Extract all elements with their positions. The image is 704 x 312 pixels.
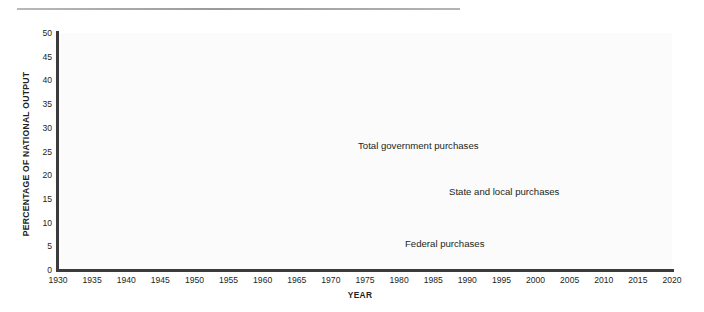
y-axis-line [56, 31, 59, 272]
series-label-total-government: Total government purchases [358, 140, 479, 151]
y-tick-25: 25 [22, 147, 52, 157]
x-tick-2020: 2020 [652, 275, 692, 285]
y-tick-20: 20 [22, 170, 52, 180]
y-tick-35: 35 [22, 99, 52, 109]
x-axis-title: YEAR [340, 290, 380, 300]
top-divider-rule [17, 8, 460, 10]
y-tick-10: 10 [22, 218, 52, 228]
y-tick-30: 30 [22, 123, 52, 133]
plot-area [58, 33, 672, 270]
chart-figure: PERCENTAGE OF NATIONAL OUTPUT 0510152025… [0, 0, 704, 312]
y-tick-0: 0 [22, 265, 52, 275]
y-tick-50: 50 [22, 28, 52, 38]
series-label-state-and-local: State and local purchases [449, 186, 559, 197]
x-axis-line [56, 269, 674, 272]
y-tick-5: 5 [22, 241, 52, 251]
y-tick-15: 15 [22, 194, 52, 204]
plot-background [58, 33, 672, 270]
series-label-federal: Federal purchases [405, 238, 484, 249]
y-tick-45: 45 [22, 52, 52, 62]
y-tick-40: 40 [22, 75, 52, 85]
